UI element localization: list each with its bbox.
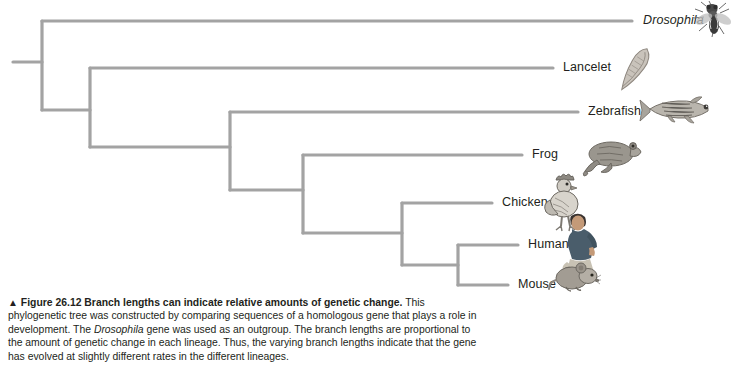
taxon-label-lancelet: Lancelet	[563, 60, 611, 74]
zebrafish-icon	[638, 92, 718, 130]
taxon-label-frog: Frog	[532, 147, 558, 161]
fly-icon	[690, 0, 737, 42]
lancelet-icon	[612, 43, 656, 95]
figure-26-12: DrosophilaLanceletZebrafishFrogChickenHu…	[0, 0, 737, 372]
caption-italic-term: Drosophila	[94, 324, 144, 335]
mouse-icon	[548, 258, 602, 294]
figure-number: Figure 26.12	[21, 297, 82, 308]
figure-caption: ▲ Figure 26.12 Branch lengths can indica…	[8, 296, 484, 363]
caption-headline: Branch lengths can indicate relative amo…	[84, 297, 402, 308]
taxon-label-zebrafish: Zebrafish	[588, 104, 641, 118]
caption-triangle-icon: ▲	[8, 297, 18, 308]
